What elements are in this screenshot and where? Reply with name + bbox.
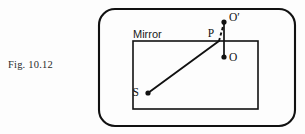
optics-diagram: Mirror S P O′ O (0, 0, 305, 134)
figure-container: Fig. 10.12 Mirror S P O′ O (0, 0, 305, 134)
point-dot-s (145, 90, 150, 95)
point-label-o-prime: O′ (229, 11, 240, 23)
mirror-rectangle (133, 41, 258, 109)
incident-ray-segment (148, 41, 219, 93)
point-label-s: S (133, 86, 139, 98)
point-label-o: O (229, 51, 237, 63)
point-dot-o (221, 54, 226, 59)
point-dot-o-prime (221, 19, 226, 24)
point-label-p: P (208, 27, 214, 39)
mirror-label: Mirror (133, 28, 162, 40)
